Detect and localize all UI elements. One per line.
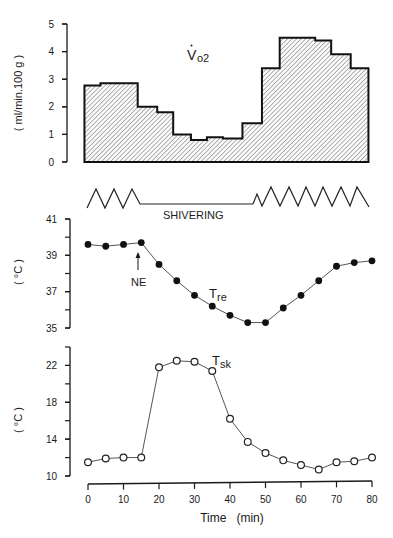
tre-point [369, 257, 376, 264]
y-tick-label: 1 [48, 129, 54, 140]
tre-point [191, 292, 198, 299]
y-tick-label: 41 [46, 214, 58, 225]
tre-series-label: T re [209, 286, 227, 303]
y-tick-label: 0 [48, 157, 54, 168]
tsk-point [244, 439, 251, 446]
tsk-point [369, 454, 376, 461]
y-tick-label: 37 [46, 286, 58, 297]
tsk-y-axis: 10141822 [46, 347, 70, 482]
time-x-axis: 01020304050607080 [85, 481, 378, 505]
tsk-point [209, 368, 216, 375]
tsk-point [333, 459, 340, 466]
x-tick-label: 60 [295, 494, 307, 505]
tre-point [120, 241, 127, 248]
x-tick-label: 70 [331, 494, 343, 505]
tre-point [298, 292, 305, 299]
svg-text:T: T [212, 353, 220, 368]
x-tick-label: 80 [366, 494, 378, 505]
x-tick-label: 0 [85, 494, 91, 505]
shivering-track: SHIVERING [87, 187, 369, 221]
x-tick-label: 50 [260, 494, 272, 505]
svg-text:T: T [209, 286, 217, 301]
tsk-point [85, 459, 92, 466]
x-axis-label: Time (min) [200, 511, 264, 525]
y-tick-label: 2 [48, 101, 54, 112]
tre-point [173, 277, 180, 284]
tre-point [262, 319, 269, 326]
y-tick-label: 39 [46, 250, 58, 261]
svg-text:NE: NE [131, 276, 146, 288]
svg-text:re: re [217, 291, 227, 303]
tsk-y-label: ( °C ) [12, 407, 24, 433]
tre-y-axis: 35373941 [46, 214, 70, 334]
tsk-point [227, 415, 234, 422]
x-tick-label: 40 [224, 494, 236, 505]
tsk-point [173, 357, 180, 364]
vo2-y-label: ( ml/min.100 g ) [12, 55, 24, 131]
vo2-y-axis: 012345 [48, 19, 67, 168]
y-tick-label: 18 [46, 397, 58, 408]
tre-point [102, 243, 109, 250]
tre-point [351, 259, 358, 266]
svg-text:V: V [187, 47, 197, 63]
x-tick-label: 20 [153, 494, 165, 505]
vo2-step-area [84, 38, 368, 162]
svg-text:o2: o2 [197, 52, 209, 64]
tsk-markers [85, 357, 376, 473]
tre-point [209, 303, 216, 310]
y-tick-label: 14 [46, 434, 58, 445]
tsk-point [120, 454, 127, 461]
tre-point [227, 312, 234, 319]
tre-point [280, 305, 287, 312]
tre-panel: 35373941 ( °C ) NE T re [12, 214, 375, 334]
y-tick-label: 35 [46, 323, 58, 334]
tre-y-label: ( °C ) [12, 259, 24, 285]
tsk-point [191, 358, 198, 365]
tsk-point [138, 454, 145, 461]
tsk-point [351, 458, 358, 465]
tsk-point [298, 462, 305, 469]
tsk-panel: 10141822 ( °C ) T sk 01020304050607080 T… [12, 347, 378, 525]
vo2-panel: 012345 ( ml/min.100 g ) V o2 [12, 19, 368, 168]
y-tick-label: 10 [46, 471, 58, 482]
tsk-series-label: T sk [212, 353, 232, 370]
svg-text:sk: sk [220, 358, 232, 370]
tsk-point [262, 450, 269, 457]
tre-point [138, 239, 145, 246]
vo2-dot-mark [191, 45, 193, 47]
x-tick-label: 30 [189, 494, 201, 505]
shivering-zigzag-right [253, 187, 369, 207]
tsk-point [156, 364, 163, 371]
y-tick-label: 3 [48, 74, 54, 85]
tre-point [156, 261, 163, 268]
y-tick-label: 22 [46, 360, 58, 371]
y-tick-label: 4 [48, 46, 54, 57]
tsk-point [102, 455, 109, 462]
y-tick-label: 5 [48, 19, 54, 30]
tre-markers [85, 239, 376, 326]
tsk-point [315, 466, 322, 473]
arrow-head-icon [136, 252, 141, 258]
tre-point [315, 277, 322, 284]
x-tick-label: 10 [118, 494, 130, 505]
figure: 012345 ( ml/min.100 g ) V o2 SHIVERING 3… [0, 0, 393, 538]
tre-point [244, 319, 251, 326]
tre-point [333, 263, 340, 270]
ne-annotation: NE [131, 252, 146, 288]
vo2-series-label: V o2 [187, 45, 209, 65]
tre-point [85, 241, 92, 248]
shivering-zigzag-left [87, 189, 253, 208]
tsk-point [280, 457, 287, 464]
shivering-label: SHIVERING [163, 209, 224, 221]
